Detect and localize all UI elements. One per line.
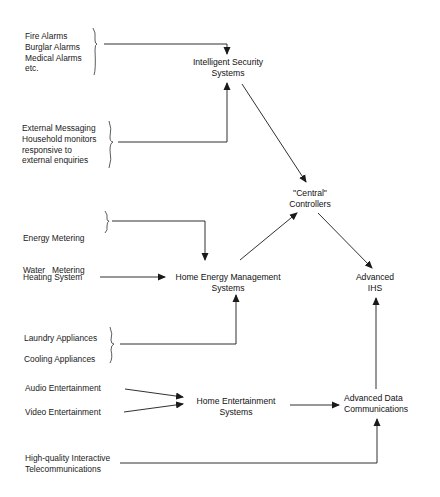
node-label-line2: Controllers — [285, 199, 335, 210]
node-advanced-ihs: Advanced IHS — [350, 272, 400, 294]
node-label-line2: IHS — [350, 283, 400, 294]
brace-metering — [105, 211, 109, 233]
node-label-line2: Communications — [344, 404, 414, 415]
input-audio: Audio Entertainment — [25, 383, 101, 394]
label-etc: etc. — [25, 63, 82, 74]
arrow-telecom-to-data — [120, 419, 377, 463]
input-video: Video Entertainment — [25, 407, 101, 418]
label-external-enquiries: external enquiries — [22, 155, 96, 166]
node-label-line1: Home Entertainment — [186, 396, 286, 407]
arrow-metering-to-energy — [112, 221, 205, 260]
label-household-monitors: Household monitors — [22, 134, 96, 145]
label-external-messaging: External Messaging — [22, 123, 96, 134]
node-label-line2: Systems — [188, 68, 268, 79]
input-external-messaging: External Messaging Household monitors re… — [22, 123, 96, 166]
arrow-security-to-central — [242, 84, 306, 182]
brace-appliances — [110, 327, 114, 363]
input-telecom: High-quality Interactive Telecommunicati… — [25, 453, 110, 475]
arrow-messaging-to-security — [118, 83, 227, 142]
input-security-alarms: Fire Alarms Burglar Alarms Medical Alarm… — [25, 31, 82, 74]
brace-messaging — [109, 121, 113, 168]
arrow-video-to-entertainment — [124, 404, 183, 412]
arrow-appliances-to-energy — [120, 295, 236, 344]
node-home-energy-management: Home Energy Management Systems — [168, 272, 288, 294]
node-label-line1: Intelligent Security — [188, 57, 268, 68]
node-home-entertainment: Home Entertainment Systems — [186, 396, 286, 418]
brace-alarms — [93, 28, 97, 75]
node-intelligent-security: Intelligent Security Systems — [188, 57, 268, 79]
label-energy-metering: Energy Metering — [23, 233, 85, 244]
node-label-line1: Advanced — [350, 272, 400, 283]
node-label-line1: Advanced Data — [344, 393, 414, 404]
arrow-central-to-ihs — [318, 213, 372, 268]
label-cooling-appliances: Cooling Appliances — [24, 349, 97, 370]
input-heating: Heating System — [23, 272, 82, 283]
node-label-line1: "Central" — [285, 188, 335, 199]
arrow-audio-to-entertainment — [125, 389, 183, 397]
label-telecommunications: Telecommunications — [25, 464, 110, 475]
label-high-quality-interactive: High-quality Interactive — [25, 453, 110, 464]
node-label-line2: Systems — [186, 407, 286, 418]
label-fire-alarms: Fire Alarms — [25, 31, 82, 42]
label-laundry-appliances: Laundry Appliances — [24, 328, 97, 349]
input-appliances: Laundry Appliances Cooling Appliances — [24, 328, 97, 370]
node-advanced-data-communications: Advanced Data Communications — [344, 393, 414, 415]
node-central-controllers: "Central" Controllers — [285, 188, 335, 210]
label-medical-alarms: Medical Alarms — [25, 53, 82, 64]
label-responsive-to: responsive to — [22, 145, 96, 156]
label-burglar-alarms: Burglar Alarms — [25, 42, 82, 53]
arrow-alarms-to-security — [104, 44, 227, 54]
node-label-line1: Home Energy Management — [168, 272, 288, 283]
arrow-energy-to-central — [240, 213, 297, 260]
node-label-line2: Systems — [168, 283, 288, 294]
